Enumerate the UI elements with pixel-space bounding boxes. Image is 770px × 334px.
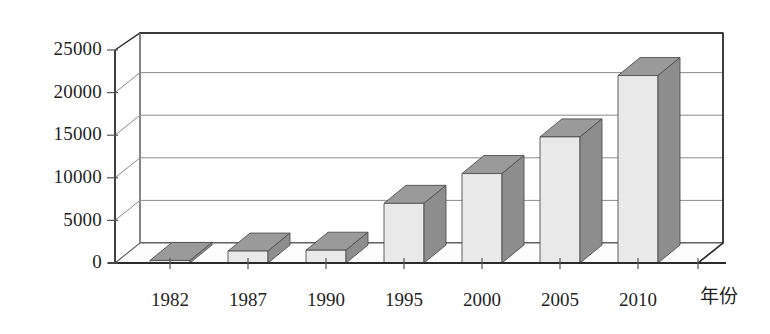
y-tick-label-25000: 25000 <box>10 38 102 60</box>
y-tick-label-5000: 5000 <box>10 209 102 231</box>
chart-container: 25000 20000 15000 10000 5000 0 1982 1987… <box>0 0 770 334</box>
x-tick-label-2000: 2000 <box>442 289 522 311</box>
y-tick-label-10000: 10000 <box>10 166 102 188</box>
x-axis-title: 年份 <box>700 281 738 308</box>
x-tick-label-1990: 1990 <box>286 289 366 311</box>
x-tick-label-1987: 1987 <box>208 289 288 311</box>
x-tick-label-1995: 1995 <box>364 289 444 311</box>
x-tick-label-2005: 2005 <box>520 289 600 311</box>
y-tick-marks <box>107 50 118 263</box>
x-tick-label-1982: 1982 <box>130 289 210 311</box>
x-tick-label-2010: 2010 <box>598 289 678 311</box>
y-tick-label-20000: 20000 <box>10 81 102 103</box>
y-tick-label-15000: 15000 <box>10 123 102 145</box>
bar-chart-3d <box>0 0 770 334</box>
y-tick-label-0: 0 <box>10 251 102 273</box>
bar-2010[interactable] <box>618 58 680 263</box>
bar-2000[interactable] <box>462 156 524 263</box>
bar-1995[interactable] <box>384 185 446 263</box>
bar-2005[interactable] <box>540 119 602 263</box>
